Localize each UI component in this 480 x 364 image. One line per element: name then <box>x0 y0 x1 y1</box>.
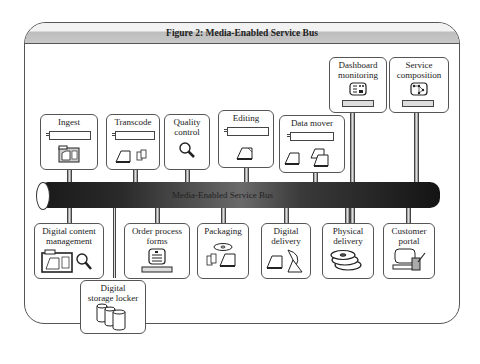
service-label: Editing <box>219 113 273 123</box>
service-ingest: Ingest <box>40 114 98 170</box>
figure-title: Figure 2: Media-Enabled Service Bus <box>25 28 459 38</box>
service-label: Digital delivery <box>262 226 310 246</box>
monitor-stand <box>342 100 374 107</box>
service-label: Transcode <box>107 117 159 127</box>
service-order-process-forms: Order process forms <box>124 223 190 279</box>
service-label: Data mover <box>280 118 344 128</box>
workflow-screen-icon <box>410 82 428 96</box>
computer-tablet-icon <box>392 248 428 274</box>
service-customer-portal: Customer portal <box>383 223 435 279</box>
dashboard-screen-icon <box>349 82 367 96</box>
service-label: Digital content management <box>35 226 103 246</box>
service-transcode: Transcode <box>106 114 160 170</box>
service-label: Packaging <box>198 226 248 236</box>
connector-digital-storage-locker <box>113 198 116 278</box>
service-packaging: Packaging <box>197 223 249 279</box>
database-cylinders-icon <box>95 303 135 331</box>
service-label: Dashboard monitoring <box>330 60 386 80</box>
magnifier-icon <box>178 141 196 159</box>
slot-bar <box>227 127 269 136</box>
service-bus-label: Media-Enabled Service Bus <box>172 190 273 200</box>
service-data-mover: Data mover <box>279 115 345 173</box>
service-digital-storage-locker: Digital storage locker <box>80 280 146 334</box>
service-dashboard-monitoring: Dashboard monitoring <box>329 57 387 113</box>
service-label: Service composition <box>390 60 448 80</box>
service-digital-delivery: Digital delivery <box>261 223 311 279</box>
slot-bar <box>115 131 155 140</box>
service-quality-control: Quality control <box>164 114 210 170</box>
figure-header: Figure 2: Media-Enabled Service Bus <box>25 23 459 44</box>
disc-package-icon <box>203 242 243 270</box>
content-folder-search-icon <box>41 249 95 273</box>
form-terminal-icon <box>141 248 173 274</box>
media-folder-icon <box>58 145 80 163</box>
document-transform-icon <box>115 147 149 165</box>
documents-copy-icon <box>284 146 332 168</box>
service-bus-end-cap <box>36 182 50 210</box>
slot-bar <box>49 131 91 140</box>
service-label: Quality control <box>165 117 209 137</box>
service-label: Order process forms <box>125 226 189 246</box>
connector-service-composition <box>414 110 419 190</box>
service-label: Digital storage locker <box>81 283 145 303</box>
disc-stack-icon <box>330 249 366 273</box>
slot-bar <box>290 132 334 141</box>
service-physical-delivery: Physical delivery <box>322 223 374 279</box>
service-label: Ingest <box>41 117 97 127</box>
monitor-stand <box>402 100 434 107</box>
service-editing: Editing <box>218 110 274 168</box>
service-digital-content-management: Digital content management <box>34 223 104 279</box>
service-service-composition: Service composition <box>389 57 449 113</box>
document-icon <box>236 145 254 161</box>
service-label: Customer portal <box>384 226 434 246</box>
service-label: Physical delivery <box>323 226 373 246</box>
satellite-dish-icon <box>266 248 306 274</box>
